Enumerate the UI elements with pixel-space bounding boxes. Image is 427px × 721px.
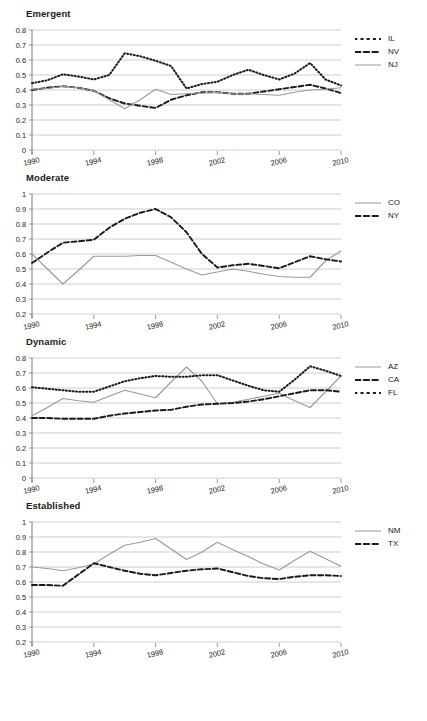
legend-label: NY: [388, 211, 399, 220]
x-tick-label: 2002: [208, 647, 226, 659]
legend-item-FL[interactable]: FL: [355, 386, 399, 399]
y-tick-label: 0: [22, 146, 26, 155]
chart-legend: CONY: [355, 196, 400, 222]
y-tick-label: 0.6: [16, 384, 26, 393]
chart-legend: AZCAFL: [355, 360, 399, 399]
legend-item-NM[interactable]: NM: [355, 524, 400, 537]
x-tick-label: 2006: [270, 319, 288, 331]
x-tick-label: 2006: [270, 647, 288, 659]
y-tick-label: 0.2: [16, 116, 26, 125]
y-tick-label: 0.5: [16, 399, 26, 408]
y-tick-label: 0.4: [16, 608, 26, 617]
legend-item-AZ[interactable]: AZ: [355, 360, 399, 373]
panel-title: Moderate: [26, 172, 427, 184]
legend-item-NV[interactable]: NV: [355, 45, 399, 58]
gridlines: 00.10.20.30.40.50.60.70.8: [16, 26, 341, 155]
y-tick-label: 0.3: [16, 623, 26, 632]
y-tick-label: 0.4: [16, 414, 26, 423]
panel-stack: Emergent00.10.20.30.40.50.60.70.81990199…: [0, 8, 427, 664]
x-tick-label: 1994: [84, 319, 102, 331]
y-tick-label: 0.3: [16, 429, 26, 438]
legend-item-NY[interactable]: NY: [355, 209, 400, 222]
y-tick-label: 0.5: [16, 593, 26, 602]
legend-label: AZ: [388, 362, 398, 371]
y-tick-label: 0.7: [16, 563, 26, 572]
x-tick-label: 2006: [270, 483, 288, 495]
chart-panel-dynamic: Dynamic00.10.20.30.40.50.60.70.819901994…: [0, 336, 427, 500]
y-tick-label: 0.6: [16, 250, 26, 259]
y-tick-label: 0.6: [16, 56, 26, 65]
legend-label: NV: [388, 47, 399, 56]
y-tick-label: 0.8: [16, 26, 26, 35]
chart-panel-moderate: Moderate0.20.30.40.50.60.70.80.911990199…: [0, 172, 427, 336]
x-tick-label: 1998: [146, 647, 164, 659]
x-axis-ticks: 199019941998200220062010: [22, 479, 349, 496]
legend-item-IL[interactable]: IL: [355, 32, 399, 45]
x-tick-label: 2010: [331, 647, 349, 659]
panel-title: Established: [26, 500, 427, 512]
x-axis-ticks: 199019941998200220062010: [22, 315, 349, 332]
series-line-NY: [32, 209, 341, 268]
chart-panel-emergent: Emergent00.10.20.30.40.50.60.70.81990199…: [0, 8, 427, 172]
y-tick-label: 0.8: [16, 548, 26, 557]
y-tick-label: 0.7: [16, 369, 26, 378]
x-tick-label: 1998: [146, 155, 164, 167]
legend-swatch-dashed-icon: [355, 375, 381, 385]
y-tick-label: 0.9: [16, 205, 26, 214]
y-tick-label: 0.2: [16, 310, 26, 319]
series-line-IL: [32, 53, 341, 88]
x-tick-label: 2002: [208, 483, 226, 495]
legend-label: NM: [388, 526, 400, 535]
y-tick-label: 0.3: [16, 101, 26, 110]
legend-label: TX: [388, 539, 398, 548]
plot-wrapper: 0.20.30.40.50.60.70.80.91199019941998200…: [0, 514, 427, 664]
legend-swatch-dashed-icon: [355, 47, 381, 57]
x-axis-ticks: 199019941998200220062010: [22, 151, 349, 168]
y-tick-label: 0: [22, 474, 26, 483]
y-tick-label: 0.9: [16, 533, 26, 542]
y-tick-label: 0.2: [16, 444, 26, 453]
x-tick-label: 1998: [146, 319, 164, 331]
x-tick-label: 1990: [22, 155, 40, 167]
y-tick-label: 1: [22, 518, 26, 527]
legend-swatch-solid-icon: [355, 362, 381, 372]
plot-wrapper: 00.10.20.30.40.50.60.70.8199019941998200…: [0, 22, 427, 172]
x-tick-label: 1994: [84, 647, 102, 659]
series-line-CO: [32, 251, 341, 284]
x-tick-label: 2010: [331, 483, 349, 495]
x-tick-label: 1998: [146, 483, 164, 495]
legend-label: IL: [388, 34, 395, 43]
legend-swatch-dashed-icon: [355, 211, 381, 221]
series-line-NM: [32, 539, 341, 571]
legend-item-NJ[interactable]: NJ: [355, 58, 399, 71]
legend-swatch-solid-icon: [355, 198, 381, 208]
chart-panel-established: Established0.20.30.40.50.60.70.80.911990…: [0, 500, 427, 664]
legend-swatch-dotted-icon: [355, 388, 381, 398]
series-line-TX: [32, 563, 341, 586]
legend-swatch-solid-icon: [355, 60, 381, 70]
series-line-AZ: [32, 367, 341, 416]
x-tick-label: 1990: [22, 483, 40, 495]
x-tick-label: 1990: [22, 647, 40, 659]
gridlines: 0.20.30.40.50.60.70.80.91: [16, 190, 341, 319]
x-tick-label: 2006: [270, 155, 288, 167]
x-axis-ticks: 199019941998200220062010: [22, 643, 349, 660]
y-tick-label: 0.4: [16, 86, 26, 95]
y-tick-label: 0.4: [16, 280, 26, 289]
x-tick-label: 2010: [331, 155, 349, 167]
legend-item-TX[interactable]: TX: [355, 537, 400, 550]
legend-swatch-dashed-icon: [355, 539, 381, 549]
legend-label: CA: [388, 375, 399, 384]
x-tick-label: 2002: [208, 155, 226, 167]
plot-wrapper: 00.10.20.30.40.50.60.70.8199019941998200…: [0, 350, 427, 500]
x-tick-label: 1994: [84, 483, 102, 495]
x-tick-label: 2010: [331, 319, 349, 331]
legend-item-CA[interactable]: CA: [355, 373, 399, 386]
gridlines: 0.20.30.40.50.60.70.80.91: [16, 518, 341, 647]
legend-item-CO[interactable]: CO: [355, 196, 400, 209]
legend-swatch-solid-icon: [355, 526, 381, 536]
legend-label: CO: [388, 198, 400, 207]
y-tick-label: 0.5: [16, 71, 26, 80]
legend-swatch-dotted-icon: [355, 34, 381, 44]
x-tick-label: 1994: [84, 155, 102, 167]
